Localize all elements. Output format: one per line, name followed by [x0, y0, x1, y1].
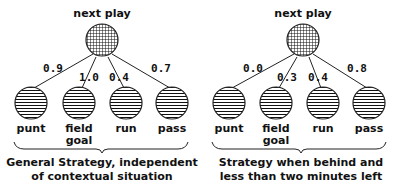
grouping-brace-icon [212, 142, 386, 153]
weight-run: 0.4 [109, 71, 129, 84]
node-run-striped-icon [307, 87, 339, 119]
node-punt-striped-icon [213, 87, 245, 119]
caption-line-1: General Strategy, independent [6, 156, 198, 169]
label-pass: pass [158, 122, 187, 135]
grouping-brace-icon [14, 142, 188, 153]
weight-run: 0.4 [308, 71, 328, 84]
label-punt: punt [215, 122, 244, 135]
strategy-diagrams: next play 0.9 1.0 0.4 0.7 punt field goa… [0, 0, 401, 187]
label-goal: goal [66, 134, 93, 147]
node-field-goal-striped-icon [63, 87, 95, 119]
weight-field-goal: 0.3 [277, 71, 297, 84]
node-pass-striped-icon [353, 87, 385, 119]
label-run: run [312, 122, 333, 135]
node-punt-striped-icon [15, 87, 47, 119]
weight-pass: 0.7 [151, 62, 171, 75]
tree-behind-late-strategy: next play 0.0 0.3 0.4 0.8 punt field goa… [212, 7, 386, 183]
caption-line-2: less than two minutes left [220, 170, 382, 183]
node-run-striped-icon [110, 87, 142, 119]
weight-field-goal: 1.0 [79, 71, 99, 84]
root-label: next play [73, 7, 130, 20]
node-pass-striped-icon [156, 87, 188, 119]
weight-punt: 0.9 [43, 62, 63, 75]
caption-line-2: of contextual situation [31, 170, 172, 183]
root-node-crosshatch-icon [287, 24, 319, 56]
root-node-crosshatch-icon [86, 24, 118, 56]
weight-pass: 0.8 [347, 62, 367, 75]
label-punt: punt [17, 122, 46, 135]
caption-line-1: Strategy when behind and [219, 156, 383, 169]
label-goal: goal [263, 134, 290, 147]
weight-punt: 0.0 [243, 62, 263, 75]
root-label: next play [274, 7, 331, 20]
label-run: run [115, 122, 136, 135]
tree-general-strategy: next play 0.9 1.0 0.4 0.7 punt field goa… [6, 7, 198, 183]
label-pass: pass [355, 122, 384, 135]
node-field-goal-striped-icon [260, 87, 292, 119]
